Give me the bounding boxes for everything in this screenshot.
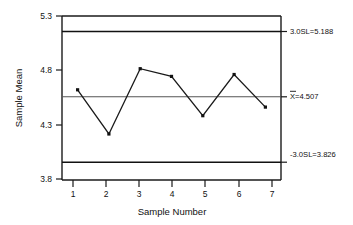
x-tick-label-5: 6 [237,189,242,199]
data-point-5 [201,114,204,117]
x-tick-label-2: 3 [137,189,142,199]
y-tick-label-1: 4.3 [40,120,52,130]
x-tick-label-6: 7 [270,189,275,199]
y-tick-label-3: 5.3 [40,11,52,21]
x-axis-title: Sample Number [138,206,207,217]
x-axis-tick-labels: 1 2 3 4 5 6 7 [71,189,275,199]
y-axis-ticks [56,16,62,179]
chart-canvas: 5.3 4.8 4.3 3.8 1 2 3 4 5 6 7 [0,0,353,225]
data-point-4 [170,75,173,78]
data-point-6 [233,73,236,76]
data-point-3 [139,67,142,70]
x-tick-label-1: 2 [104,189,109,199]
data-point-1 [76,88,79,91]
y-axis-tick-labels: 5.3 4.8 4.3 3.8 [40,11,52,184]
x-tick-label-4: 5 [203,189,208,199]
plot-area-background [62,16,281,180]
data-point-7 [264,106,267,109]
y-tick-label-0: 3.8 [40,174,52,184]
lower-control-limit-label: -3.0SL=3.826 [290,150,336,159]
control-chart: 5.3 4.8 4.3 3.8 1 2 3 4 5 6 7 [0,0,353,225]
limit-label-ticks [281,32,287,163]
x-tick-label-3: 4 [170,189,175,199]
data-point-2 [107,132,110,135]
upper-control-limit-label: 3.0SL=5.188 [290,27,333,36]
center-line-label: X=4.507 [290,91,319,101]
y-tick-label-2: 4.8 [40,65,52,75]
center-line-label-text: X=4.507 [290,92,319,101]
x-axis-ticks [73,180,272,187]
y-axis-title: Sample Mean [13,69,24,128]
x-tick-label-0: 1 [71,189,76,199]
